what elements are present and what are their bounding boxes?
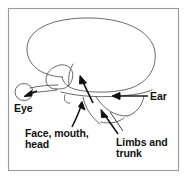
label-face-mouth-head-line2: head [25, 138, 49, 150]
brain-diagram-figure: Eye Ear Face, mouth, head Limbs and trun… [0, 0, 188, 181]
label-eye: Eye [14, 102, 33, 114]
label-limbs-and-trunk-line2: trunk [116, 147, 142, 159]
brain-diagram-canvas: Eye Ear Face, mouth, head Limbs and trun… [0, 0, 188, 181]
label-ear: Ear [150, 90, 167, 102]
